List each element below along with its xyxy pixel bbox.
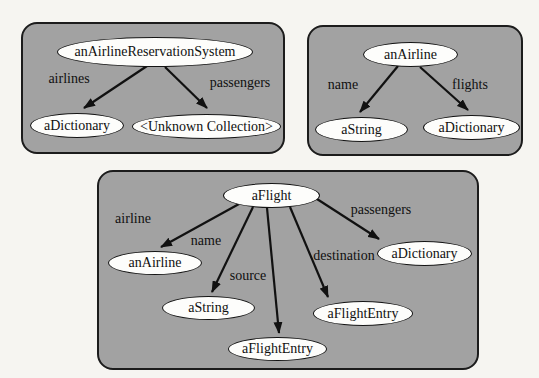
object-diagram-figure: anAirlineReservationSystem aDictionary <… bbox=[0, 0, 539, 378]
node-an-airline-p2: anAirline bbox=[363, 42, 458, 67]
arrow-airlines bbox=[84, 66, 147, 108]
arrow-source bbox=[267, 208, 279, 333]
node-a-dictionary-p2: aDictionary bbox=[423, 115, 520, 140]
edge-label-flights: flights bbox=[452, 78, 488, 92]
node-a-dictionary-p1: aDictionary bbox=[30, 113, 124, 138]
edge-label-name-p2: name bbox=[328, 78, 358, 92]
edge-label-airline: airline bbox=[115, 212, 151, 226]
node-unknown-collection: <Unknown Collection> bbox=[132, 114, 281, 139]
edge-label-passengers-p3: passengers bbox=[351, 203, 412, 217]
edge-label-passengers-p1: passengers bbox=[210, 76, 271, 90]
node-a-string-p2: aString bbox=[315, 117, 408, 142]
edge-label-destination: destination bbox=[313, 249, 374, 263]
node-a-dictionary-p3: aDictionary bbox=[377, 241, 472, 266]
node-an-airline-reservation-system: anAirlineReservationSystem bbox=[57, 37, 253, 67]
node-a-flight: aFlight bbox=[223, 183, 320, 208]
node-an-airline-p3: anAirline bbox=[108, 251, 202, 275]
edge-label-name-p3: name bbox=[191, 234, 221, 248]
edge-label-airlines: airlines bbox=[48, 72, 89, 86]
edge-label-source: source bbox=[230, 269, 267, 283]
node-a-flight-entry-destination: aFlightEntry bbox=[313, 301, 413, 326]
node-a-flight-entry-source: aFlightEntry bbox=[228, 337, 327, 361]
node-a-string-p3: aString bbox=[162, 296, 255, 320]
arrow-passengers-p1 bbox=[165, 67, 207, 108]
arrow-name-p2 bbox=[360, 66, 398, 112]
